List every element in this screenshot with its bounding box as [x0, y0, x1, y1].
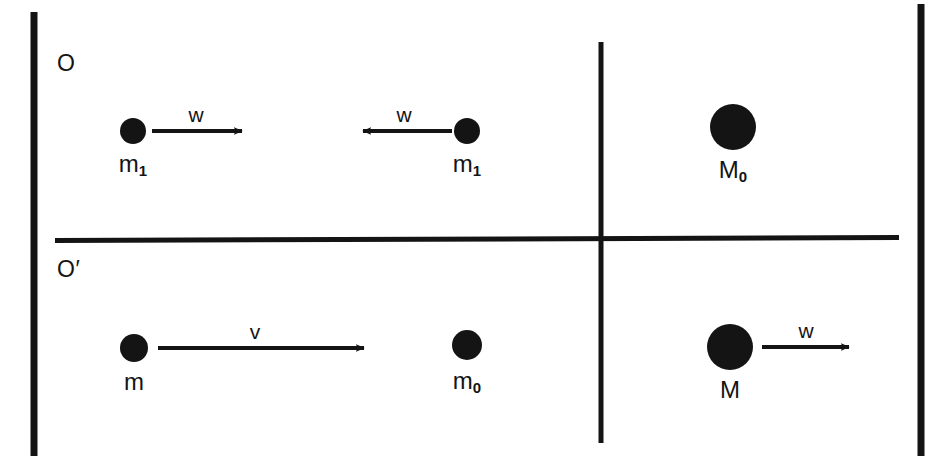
mass-label-base: M [720, 376, 740, 403]
mass-label-subscript: 1 [473, 162, 481, 179]
velocity-label-w-left: w [396, 104, 411, 125]
mass-label-subscript: 1 [139, 162, 147, 179]
body-m1-right [454, 118, 480, 144]
mass-label-base: m [124, 368, 144, 395]
mass-label-subscript: 0 [739, 168, 747, 185]
mass-label-subscript: 0 [473, 379, 481, 396]
body-M0 [710, 104, 756, 150]
mass-label-base: M [719, 156, 739, 183]
frame-label-O: O [57, 52, 75, 75]
velocity-label-w-right: w [188, 104, 203, 125]
mass-label-M: M [720, 378, 740, 402]
mass-label-base: m [119, 150, 139, 177]
frame-divider-horizontal [55, 238, 899, 241]
frame-O-bodies [120, 104, 756, 150]
mass-label-m: m [124, 370, 144, 394]
body-m1-left [120, 118, 146, 144]
body-M [707, 324, 753, 370]
mass-label-M0: M0 [719, 158, 747, 182]
mass-label-m1-right: m1 [453, 152, 481, 176]
velocity-label-v: v [250, 321, 261, 342]
frame-label-O-prime: O′ [57, 258, 80, 281]
mass-label-m1-left: m1 [119, 152, 147, 176]
mass-label-m0: m0 [453, 369, 481, 393]
mass-label-base: m [453, 150, 473, 177]
body-m [120, 334, 148, 362]
velocity-label-w-M: w [798, 320, 813, 341]
body-m0 [452, 330, 482, 360]
mass-label-base: m [453, 367, 473, 394]
physics-diagram: O O′ w w v w m1 m1 M0 m m0 M [0, 0, 949, 459]
